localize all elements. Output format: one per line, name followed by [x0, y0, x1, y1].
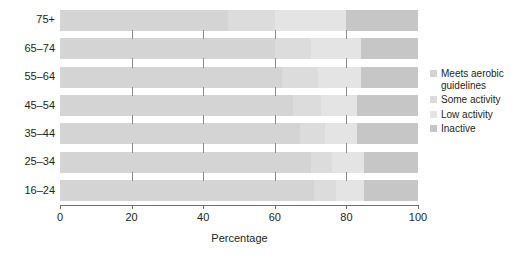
x-axis-tick: [132, 205, 133, 209]
x-axis-title: Percentage: [60, 232, 419, 244]
grid-tick-mark: [346, 115, 347, 124]
bar-segment: [60, 67, 282, 88]
legend-label: Meets aerobic guidelines: [441, 68, 529, 91]
chart-legend: Meets aerobic guidelinesSome activityLow…: [430, 68, 529, 138]
x-axis-tick: [60, 205, 61, 209]
x-axis-tick-label: 0: [57, 211, 63, 223]
grid-tick-mark: [132, 143, 133, 152]
grid-tick-mark: [132, 87, 133, 96]
x-axis-line: [60, 205, 419, 206]
bar-segment: [311, 152, 332, 173]
x-axis-tick: [203, 205, 204, 209]
bar-segment: [282, 67, 318, 88]
x-axis-tick-label: 20: [125, 211, 137, 223]
bar-segment: [321, 95, 357, 116]
bar-row: [60, 180, 418, 201]
bar-segment: [332, 152, 364, 173]
bar-segment: [325, 123, 357, 144]
grid-tick-mark: [203, 172, 204, 181]
legend-swatch-icon: [430, 125, 437, 132]
legend-label: Some activity: [441, 94, 500, 106]
bar-row: [60, 38, 418, 59]
x-axis-tick: [418, 205, 419, 209]
bar-row: [60, 152, 418, 173]
legend-label: Low activity: [441, 109, 493, 121]
legend-swatch-icon: [430, 111, 437, 118]
bar-segment: [311, 38, 361, 59]
y-axis-tick-label: 16–24: [0, 185, 55, 196]
legend-item[interactable]: Meets aerobic guidelines: [430, 68, 529, 91]
bar-segment: [60, 38, 275, 59]
legend-label: Inactive: [441, 123, 475, 135]
grid-tick-mark: [203, 87, 204, 96]
grid-tick-mark: [203, 30, 204, 39]
bar-segment: [228, 10, 275, 31]
bar-segment: [364, 180, 418, 201]
y-axis-tick-label: 25–34: [0, 156, 55, 167]
y-axis-tick-label: 65–74: [0, 43, 55, 54]
legend-swatch-icon: [430, 70, 437, 77]
bar-segment: [60, 95, 293, 116]
grid-tick-mark: [346, 58, 347, 67]
grid-tick-mark: [346, 172, 347, 181]
y-axis-tick-label: 35–44: [0, 128, 55, 139]
bar-row: [60, 123, 418, 144]
x-axis-tick: [346, 205, 347, 209]
x-axis-tick-label: 100: [409, 211, 427, 223]
legend-swatch-icon: [430, 96, 437, 103]
y-axis-tick-label: 75+: [0, 14, 55, 25]
stacked-bar-chart: 75+65–7455–6445–5435–4425–3416–24 020406…: [0, 0, 531, 261]
y-axis: 75+65–7455–6445–5435–4425–3416–24: [0, 6, 55, 205]
x-axis-tick-label: 80: [340, 211, 352, 223]
x-axis-tick-label: 60: [269, 211, 281, 223]
legend-item[interactable]: Some activity: [430, 94, 529, 106]
x-axis-tick: [275, 205, 276, 209]
grid-tick-mark: [132, 172, 133, 181]
grid-tick-mark: [132, 115, 133, 124]
grid-tick-mark: [275, 30, 276, 39]
grid-tick-mark: [132, 30, 133, 39]
legend-item[interactable]: Low activity: [430, 109, 529, 121]
bar-segment: [275, 38, 311, 59]
grid-tick-mark: [275, 115, 276, 124]
bar-segment: [336, 180, 365, 201]
y-axis-tick-label: 45–54: [0, 100, 55, 111]
bar-segment: [60, 10, 228, 31]
plot-area: [60, 6, 418, 205]
bar-segment: [314, 180, 335, 201]
bar-row: [60, 67, 418, 88]
bar-segment: [293, 95, 322, 116]
grid-tick-mark: [346, 87, 347, 96]
bar-segment: [60, 180, 314, 201]
bar-segment: [300, 123, 325, 144]
grid-tick-mark: [346, 30, 347, 39]
grid-tick-mark: [275, 87, 276, 96]
grid-tick-mark: [275, 58, 276, 67]
grid-tick-mark: [203, 58, 204, 67]
y-axis-tick-label: 55–64: [0, 71, 55, 82]
grid-tick-mark: [275, 143, 276, 152]
bar-segment: [357, 95, 418, 116]
grid-tick-mark: [132, 58, 133, 67]
bar-segment: [275, 10, 347, 31]
grid-tick-mark: [275, 172, 276, 181]
grid-tick-mark: [203, 143, 204, 152]
grid-tick-mark: [346, 143, 347, 152]
bar-segment: [60, 152, 311, 173]
legend-item[interactable]: Inactive: [430, 123, 529, 135]
grid-tick-mark: [203, 115, 204, 124]
bar-segment: [318, 67, 361, 88]
bar-row: [60, 10, 418, 31]
bar-segment: [346, 10, 418, 31]
bar-segment: [361, 67, 418, 88]
bar-segment: [361, 38, 418, 59]
bar-row: [60, 95, 418, 116]
bar-segment: [357, 123, 418, 144]
bar-segment: [364, 152, 418, 173]
bar-segment: [60, 123, 300, 144]
x-axis-tick-label: 40: [197, 211, 209, 223]
